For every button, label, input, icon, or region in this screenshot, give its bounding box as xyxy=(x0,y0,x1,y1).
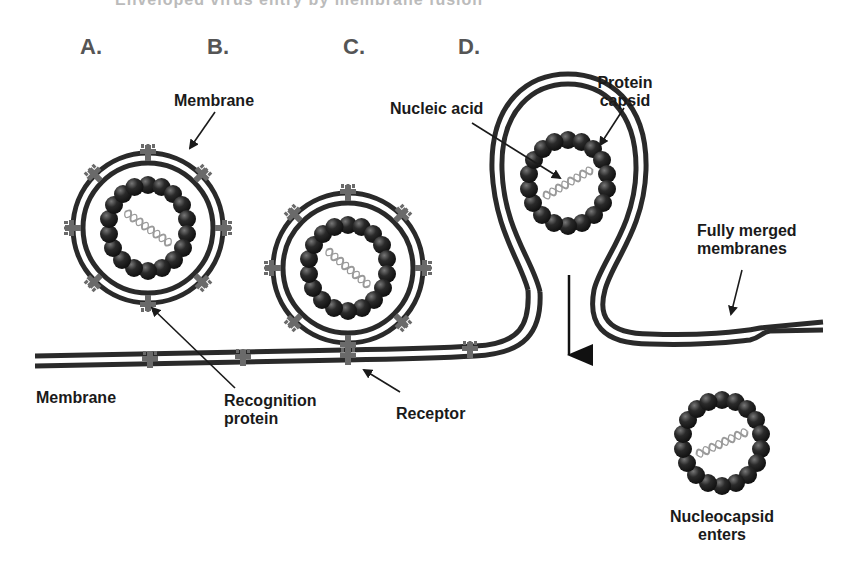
label-protein-capsid: Protein capsid xyxy=(590,74,660,110)
nucleic-acid-a xyxy=(123,209,173,248)
host-membrane xyxy=(35,290,540,368)
label-receptor: Receptor xyxy=(396,405,465,423)
virus-a xyxy=(64,144,232,312)
virus-fusion-diagram xyxy=(0,0,845,570)
nucleocapsid-d xyxy=(674,391,770,495)
stage-b-label: B. xyxy=(207,34,229,60)
label-membrane-top: Membrane xyxy=(174,92,254,110)
label-fully-merged-membranes: Fully merged membranes xyxy=(697,222,797,258)
stage-a-label: A. xyxy=(80,34,102,60)
label-recognition-protein: Recognition protein xyxy=(224,392,316,428)
label-nucleocapsid-enters: Nucleocapsid enters xyxy=(662,508,782,544)
nucleic-acid-b xyxy=(324,247,372,289)
stage-d-label: D. xyxy=(458,34,480,60)
nucleic-acid-d xyxy=(695,428,749,459)
label-membrane-bottom: Membrane xyxy=(36,389,116,407)
stage-c-label: C. xyxy=(343,34,365,60)
label-nucleic-acid: Nucleic acid xyxy=(390,100,483,118)
virus-b xyxy=(264,184,432,365)
